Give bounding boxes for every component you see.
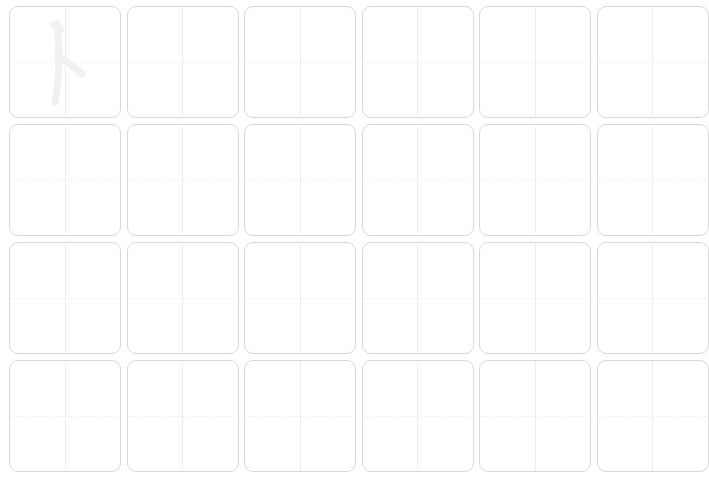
- practice-cell[interactable]: [362, 6, 474, 118]
- horizontal-guide-line: [481, 180, 589, 181]
- horizontal-guide-line: [481, 416, 589, 417]
- practice-cell[interactable]: [597, 242, 709, 354]
- horizontal-guide-line: [481, 298, 589, 299]
- horizontal-guide-line: [599, 416, 707, 417]
- practice-cell[interactable]: [479, 6, 591, 118]
- cjk-stroke-ren-radical-icon: [10, 7, 121, 118]
- practice-cell[interactable]: [244, 242, 356, 354]
- practice-cell[interactable]: [244, 124, 356, 236]
- practice-cell[interactable]: [597, 360, 709, 472]
- horizontal-guide-line: [364, 180, 472, 181]
- practice-cell[interactable]: [597, 6, 709, 118]
- practice-cell[interactable]: [127, 242, 239, 354]
- practice-cell[interactable]: [9, 6, 121, 118]
- practice-cell[interactable]: [9, 360, 121, 472]
- horizontal-guide-line: [599, 180, 707, 181]
- horizontal-guide-line: [11, 180, 119, 181]
- practice-cell[interactable]: [244, 360, 356, 472]
- horizontal-guide-line: [11, 62, 119, 63]
- horizontal-guide-line: [364, 416, 472, 417]
- horizontal-guide-line: [246, 62, 354, 63]
- practice-cell[interactable]: [479, 124, 591, 236]
- practice-cell[interactable]: [362, 360, 474, 472]
- practice-cell[interactable]: [362, 124, 474, 236]
- practice-cell[interactable]: [9, 124, 121, 236]
- handwriting-practice-worksheet: [0, 0, 709, 492]
- horizontal-guide-line: [364, 298, 472, 299]
- horizontal-guide-line: [129, 62, 237, 63]
- horizontal-guide-line: [246, 416, 354, 417]
- practice-cell[interactable]: [127, 124, 239, 236]
- horizontal-guide-line: [129, 416, 237, 417]
- practice-cell[interactable]: [597, 124, 709, 236]
- horizontal-guide-line: [11, 416, 119, 417]
- practice-cell[interactable]: [479, 242, 591, 354]
- horizontal-guide-line: [246, 298, 354, 299]
- practice-cell[interactable]: [127, 6, 239, 118]
- practice-cell[interactable]: [244, 6, 356, 118]
- practice-cell[interactable]: [127, 360, 239, 472]
- horizontal-guide-line: [11, 298, 119, 299]
- horizontal-guide-line: [599, 62, 707, 63]
- practice-cell[interactable]: [362, 242, 474, 354]
- horizontal-guide-line: [246, 180, 354, 181]
- horizontal-guide-line: [129, 298, 237, 299]
- horizontal-guide-line: [364, 62, 472, 63]
- horizontal-guide-line: [481, 62, 589, 63]
- practice-cell[interactable]: [9, 242, 121, 354]
- practice-cell[interactable]: [479, 360, 591, 472]
- horizontal-guide-line: [599, 298, 707, 299]
- horizontal-guide-line: [129, 180, 237, 181]
- practice-grid: [9, 6, 709, 472]
